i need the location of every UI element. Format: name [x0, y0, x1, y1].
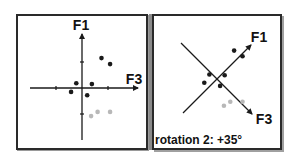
plots-canvas: F1 F3 F1 F3 rotation 2: +35° — [0, 0, 298, 161]
data-point — [74, 81, 79, 86]
data-point — [69, 90, 74, 95]
rotated-f1-axis-label: F1 — [251, 29, 268, 45]
data-point — [108, 110, 113, 115]
data-point — [85, 93, 90, 98]
rotated-data-point — [240, 99, 245, 104]
f1-axis-label: F1 — [73, 17, 90, 33]
rotated-f3-axis-label: F3 — [256, 111, 273, 127]
original-plot: F1 F3 — [30, 17, 142, 140]
data-point — [99, 56, 104, 61]
rotated-data-point — [202, 80, 207, 85]
data-point — [108, 62, 113, 67]
rotation-caption: rotation 2: +35° — [155, 133, 242, 147]
data-point — [89, 114, 94, 119]
rotated-data-point — [222, 103, 227, 108]
f3-axis-label: F3 — [126, 71, 143, 87]
rotated-plot: F1 F3 rotation 2: +35° — [155, 29, 272, 147]
data-point — [95, 110, 100, 115]
rotated-data-point — [232, 48, 237, 53]
data-point — [90, 82, 95, 87]
rotated-data-point — [222, 73, 227, 78]
data-points — [69, 56, 113, 119]
rotated-data-point — [228, 99, 233, 104]
rotated-data-point — [207, 72, 212, 77]
rotated-data-point — [218, 84, 223, 89]
rotated-data-point — [240, 54, 245, 59]
